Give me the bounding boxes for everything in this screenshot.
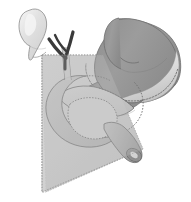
anatomy-figure: Stomach, duodenum and biliary tract with…: [0, 0, 191, 202]
anatomy-illustration: Stomach, duodenum and biliary tract with…: [0, 0, 191, 202]
